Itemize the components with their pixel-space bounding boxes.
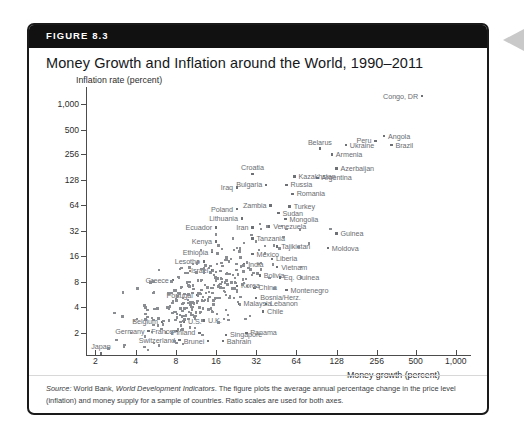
data-point: [223, 290, 225, 292]
data-point: [215, 233, 217, 235]
data-point-label: Iran: [236, 223, 248, 232]
data-point: [180, 329, 182, 331]
data-point: [200, 280, 202, 282]
data-point: [122, 291, 124, 293]
data-point: [156, 307, 158, 309]
data-point: [130, 332, 132, 334]
data-point: [200, 249, 202, 251]
y-axis-tick-label: 256: [33, 149, 79, 159]
screenshot-root: FIGURE 8.3 Money Growth and Inflation ar…: [0, 0, 528, 432]
data-point: [113, 312, 115, 314]
data-point: [175, 289, 177, 291]
x-axis-tick-label: 16: [211, 356, 221, 366]
data-point: [144, 335, 146, 337]
data-point: [266, 225, 268, 227]
data-point: [136, 318, 138, 320]
data-point: [291, 193, 293, 195]
data-point: [230, 281, 232, 283]
right-edge-arrow-marker: [503, 29, 524, 51]
data-point: [146, 309, 148, 311]
data-point: [225, 309, 227, 311]
data-point: [197, 260, 199, 262]
data-point: [297, 246, 299, 248]
data-point: [152, 324, 154, 326]
data-point: [171, 302, 173, 304]
x-axis-tick: [296, 350, 297, 355]
data-point: [224, 281, 226, 283]
data-point-label: Belarus: [308, 138, 332, 147]
data-point: [208, 267, 210, 269]
data-point: [100, 352, 102, 354]
data-point: [182, 302, 184, 304]
data-point: [229, 295, 231, 297]
data-point: [222, 340, 224, 342]
data-point-label: Russia: [291, 180, 313, 189]
data-point-label: Romania: [297, 189, 325, 198]
data-point: [273, 244, 275, 246]
data-point: [264, 245, 266, 247]
data-point: [175, 298, 177, 300]
data-point: [256, 272, 258, 274]
x-axis-tick-label: 64: [292, 356, 302, 366]
source-label: Source:: [46, 384, 71, 393]
data-point: [167, 292, 169, 294]
data-point: [300, 276, 302, 278]
footer-divider: [29, 375, 487, 376]
data-point-label: Bahrain: [227, 337, 251, 346]
y-axis-tick-label: 2: [33, 328, 79, 338]
data-point: [308, 242, 310, 244]
data-point: [197, 292, 199, 294]
data-point: [243, 242, 245, 244]
y-axis-tick: [81, 130, 87, 131]
x-axis-tick: [337, 350, 338, 355]
data-point-label: Chile: [267, 307, 283, 316]
data-point: [188, 281, 190, 283]
data-point: [228, 273, 230, 275]
figure-card: FIGURE 8.3 Money Growth and Inflation ar…: [27, 23, 489, 415]
x-axis-tick-label: 128: [329, 356, 343, 366]
data-point: [203, 260, 205, 262]
data-point: [260, 228, 262, 230]
data-point: [259, 274, 261, 276]
data-point: [250, 234, 252, 236]
data-point: [165, 331, 167, 333]
data-point: [265, 184, 267, 186]
data-point-label: Brazil: [395, 141, 413, 150]
data-point: [160, 328, 162, 330]
y-axis-tick: [81, 333, 87, 334]
data-point: [276, 266, 278, 268]
data-point-label: Bulgaria: [236, 180, 262, 189]
data-point: [331, 153, 333, 155]
data-point: [228, 260, 230, 262]
data-point: [162, 320, 164, 322]
x-axis-tick: [176, 350, 177, 355]
data-point: [269, 204, 271, 206]
data-point-label: Zambia: [243, 201, 267, 210]
data-point: [144, 313, 146, 315]
data-point: [219, 286, 221, 288]
data-point: [107, 347, 109, 349]
y-axis-tick: [81, 104, 87, 105]
y-axis-tick: [81, 307, 87, 308]
x-axis-tick: [216, 350, 217, 355]
data-point: [374, 140, 376, 142]
data-point: [133, 320, 135, 322]
data-point: [271, 258, 273, 260]
data-point: [246, 285, 248, 287]
data-point: [279, 276, 281, 278]
data-point: [273, 287, 275, 289]
data-point: [182, 320, 184, 322]
data-point: [254, 286, 256, 288]
data-point: [260, 262, 262, 264]
data-point-label: Ukraine: [350, 141, 374, 150]
data-point: [192, 306, 194, 308]
y-axis-tick-label: 16: [33, 251, 79, 261]
data-point: [143, 304, 145, 306]
data-point: [184, 272, 186, 274]
data-point: [188, 266, 190, 268]
data-point: [152, 319, 154, 321]
data-point-label: Armenia: [336, 150, 362, 159]
data-point: [251, 253, 253, 255]
data-point-label: Ecuador: [186, 223, 212, 232]
data-point: [199, 311, 201, 313]
